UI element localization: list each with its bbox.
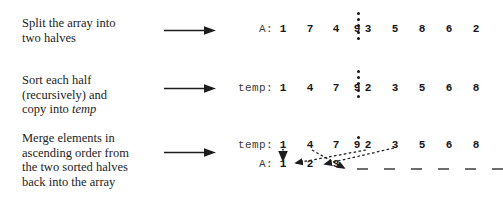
array-cell: 8 xyxy=(417,22,427,36)
array-cell: 4 xyxy=(305,138,315,152)
row-label: temp: xyxy=(238,138,273,152)
row-label: temp: xyxy=(238,81,273,95)
array-cell: 1 xyxy=(278,22,288,36)
array-cell: 1 xyxy=(278,138,288,152)
vertical-dotted-divider xyxy=(357,70,360,101)
array-blank-slot xyxy=(384,168,395,170)
array-cell: 7 xyxy=(331,138,341,152)
array-cell: 1 xyxy=(278,157,288,171)
array-row-temp-sorted: temp: 1 4 7 9 2 3 5 6 8 xyxy=(0,81,502,95)
step-description-emphasis: temp xyxy=(72,102,96,116)
vertical-dotted-divider xyxy=(357,12,360,43)
array-cell: 8 xyxy=(471,81,481,95)
array-blank-slot xyxy=(357,168,368,170)
array-row-temp-merge-source: temp: 1 4 7 9 2 3 5 6 8 xyxy=(0,138,502,152)
array-cell: 5 xyxy=(417,138,427,152)
array-cell: 8 xyxy=(471,138,481,152)
single-dot-divider xyxy=(357,136,360,139)
array-cell: 1 xyxy=(278,81,288,95)
array-blank-slot xyxy=(465,168,476,170)
array-cell: 6 xyxy=(444,81,454,95)
array-cell: 7 xyxy=(305,22,315,36)
array-blank-slot xyxy=(492,168,503,170)
array-cell: 3 xyxy=(390,138,400,152)
row-label: A: xyxy=(259,157,273,171)
step-description-text: copy into xyxy=(22,102,72,116)
array-cell: 4 xyxy=(305,81,315,95)
array-cell: 2 xyxy=(363,81,373,95)
array-cell: 6 xyxy=(444,22,454,36)
array-cell: 3 xyxy=(390,81,400,95)
array-cell: 2 xyxy=(471,22,481,36)
array-cell: 4 xyxy=(331,22,341,36)
step-description-line: copy into temp xyxy=(22,102,107,117)
array-cell: 2 xyxy=(305,157,315,171)
step-description-line: back into the array xyxy=(22,175,129,190)
array-cell: 6 xyxy=(444,138,454,152)
array-blank-slot xyxy=(411,168,422,170)
array-row-a-merge-target: A: 1 2 3 xyxy=(0,157,502,171)
array-cell: 5 xyxy=(390,22,400,36)
row-label: A: xyxy=(259,22,273,36)
array-cell: 5 xyxy=(417,81,427,95)
array-cell: 3 xyxy=(331,157,341,171)
array-row-a-unsorted: A: 1 7 4 9 3 5 8 6 2 xyxy=(0,22,502,36)
array-cell: 3 xyxy=(363,22,373,36)
array-blank-slot xyxy=(438,168,449,170)
array-cell: 9 xyxy=(352,138,362,152)
array-cell: 2 xyxy=(363,138,373,152)
array-cell: 7 xyxy=(331,81,341,95)
